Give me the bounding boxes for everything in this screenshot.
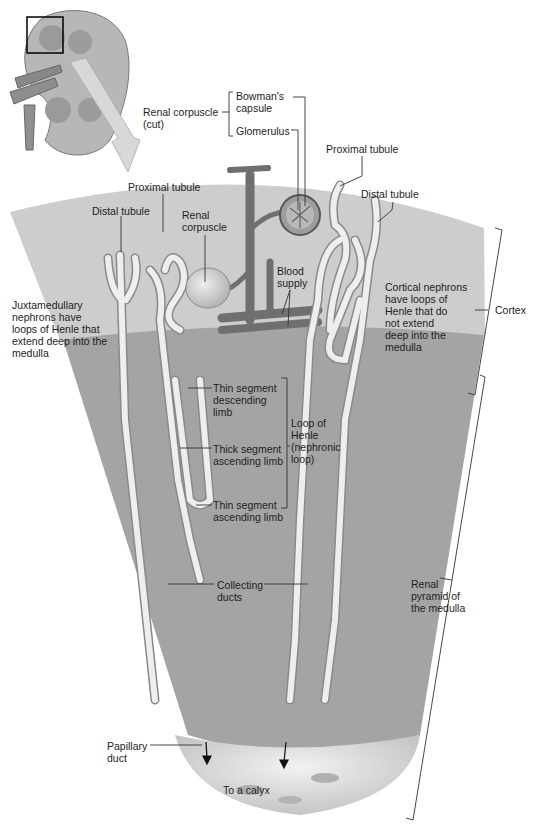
label-thin-descending-limb: Thin segment descending limb xyxy=(213,382,277,418)
renal-corpuscle-shape xyxy=(186,268,230,308)
label-renal-corpuscle: Renal corpuscle xyxy=(182,209,227,233)
label-thick-ascending-limb: Thick segment ascending limb xyxy=(213,443,283,467)
label-loop-of-henle: Loop of Henle (nephronic loop) xyxy=(291,417,341,465)
label-cortical-nephrons: Cortical nephrons have loops of Henle th… xyxy=(385,281,467,353)
label-collecting-ducts: Collecting ducts xyxy=(217,579,263,603)
label-blood-supply: Blood supply xyxy=(277,265,307,289)
label-juxtamedullary-nephrons: Juxtamedullary nephrons have loops of He… xyxy=(12,299,107,359)
glomerulus-cut xyxy=(280,195,320,235)
label-proximal-tubule-left: Proximal tubule xyxy=(128,181,200,193)
label-distal-tubule-right: Distal tubule xyxy=(361,188,419,200)
label-papillary-duct: Papillary duct xyxy=(107,740,147,764)
label-distal-tubule-left: Distal tubule xyxy=(92,205,150,217)
label-thin-ascending-limb: Thin segment ascending limb xyxy=(213,499,283,523)
kidney-inset-illustration xyxy=(10,10,140,172)
label-bowmans-capsule: Bowman's capsule xyxy=(236,90,284,114)
label-renal-pyramid: Renal pyramid of the medulla xyxy=(411,578,465,614)
label-cortex: Cortex xyxy=(495,304,526,316)
label-to-a-calyx: To a calyx xyxy=(223,784,270,796)
label-glomerulus: Glomerulus xyxy=(236,125,290,137)
label-renal-corpuscle-cut: Renal corpuscle (cut) xyxy=(143,106,218,130)
label-proximal-tubule-right: Proximal tubule xyxy=(326,143,398,155)
nephron-diagram: Renal corpuscle (cut) Bowman's capsule G… xyxy=(0,0,536,824)
